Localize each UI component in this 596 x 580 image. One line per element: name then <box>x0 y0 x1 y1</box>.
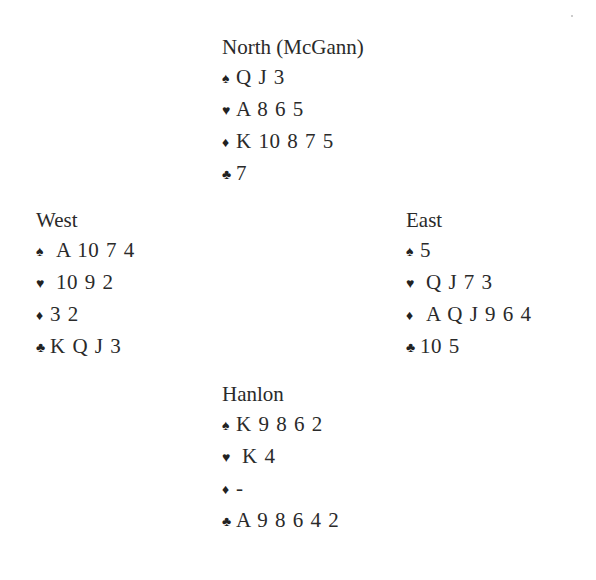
east-title: East <box>406 205 532 235</box>
south-spades-row: ♠K 9 8 6 2 <box>222 409 339 441</box>
south-clubs-row: ♣A 9 8 6 4 2 <box>222 505 339 537</box>
west-spades-row: ♠A 10 7 4 <box>36 235 135 267</box>
heart-icon: ♥ <box>406 269 420 299</box>
north-hearts-row: ♥A 8 6 5 <box>222 94 364 126</box>
south-hearts: K 4 <box>236 444 275 468</box>
west-diamonds-row: ♦3 2 <box>36 299 135 331</box>
east-diamonds: A Q J 9 6 4 <box>420 302 532 326</box>
east-hearts: Q J 7 3 <box>420 270 493 294</box>
north-spades: Q J 3 <box>236 65 285 89</box>
spade-icon: ♠ <box>222 411 236 441</box>
diamond-icon: ♦ <box>222 475 236 505</box>
heart-icon: ♥ <box>36 269 50 299</box>
spade-icon: ♠ <box>222 64 236 94</box>
south-title: Hanlon <box>222 379 339 409</box>
north-diamonds-row: ♦K 10 8 7 5 <box>222 126 364 158</box>
heart-icon: ♥ <box>222 443 236 473</box>
diamond-icon: ♦ <box>222 128 236 158</box>
north-clubs-row: ♣7 <box>222 158 364 190</box>
west-hand: West ♠A 10 7 4 ♥10 9 2 ♦3 2 ♣K Q J 3 <box>36 205 135 363</box>
north-hearts: A 8 6 5 <box>236 97 304 121</box>
heart-icon: ♥ <box>222 96 236 126</box>
west-diamonds: 3 2 <box>50 302 79 326</box>
north-clubs: 7 <box>236 161 247 185</box>
east-hearts-row: ♥Q J 7 3 <box>406 267 532 299</box>
south-clubs: A 9 8 6 4 2 <box>236 508 339 532</box>
east-clubs-row: ♣10 5 <box>406 331 532 363</box>
north-diamonds: K 10 8 7 5 <box>236 129 334 153</box>
club-icon: ♣ <box>222 507 236 537</box>
west-hearts: 10 9 2 <box>50 270 114 294</box>
club-icon: ♣ <box>36 333 50 363</box>
north-hand: North (McGann) ♠Q J 3 ♥A 8 6 5 ♦K 10 8 7… <box>222 32 364 190</box>
club-icon: ♣ <box>406 333 420 363</box>
east-spades-row: ♠5 <box>406 235 532 267</box>
spade-icon: ♠ <box>406 237 420 267</box>
spade-icon: ♠ <box>36 237 50 267</box>
west-spades: A 10 7 4 <box>50 238 135 262</box>
east-diamonds-row: ♦A Q J 9 6 4 <box>406 299 532 331</box>
east-spades: 5 <box>420 238 431 262</box>
south-diamonds: - <box>236 476 244 500</box>
club-icon: ♣ <box>222 160 236 190</box>
diamond-icon: ♦ <box>406 301 420 331</box>
west-hearts-row: ♥10 9 2 <box>36 267 135 299</box>
east-clubs: 10 5 <box>420 334 460 358</box>
west-clubs-row: ♣K Q J 3 <box>36 331 135 363</box>
west-clubs: K Q J 3 <box>50 334 121 358</box>
north-spades-row: ♠Q J 3 <box>222 62 364 94</box>
south-hand: Hanlon ♠K 9 8 6 2 ♥K 4 ♦- ♣A 9 8 6 4 2 <box>222 379 339 537</box>
south-hearts-row: ♥K 4 <box>222 441 339 473</box>
diamond-icon: ♦ <box>36 301 50 331</box>
south-spades: K 9 8 6 2 <box>236 412 323 436</box>
scan-speck <box>571 15 573 17</box>
north-title: North (McGann) <box>222 32 364 62</box>
south-diamonds-row: ♦- <box>222 473 339 505</box>
east-hand: East ♠5 ♥Q J 7 3 ♦A Q J 9 6 4 ♣10 5 <box>406 205 532 363</box>
west-title: West <box>36 205 135 235</box>
